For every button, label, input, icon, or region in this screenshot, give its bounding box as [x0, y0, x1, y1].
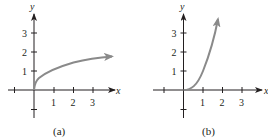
curve-square: [184, 19, 219, 90]
panel-b: y x 1 2 3 1 2 3 (b): [153, 1, 268, 138]
y-tick-label-2: 2: [22, 47, 27, 58]
x-tick-label-2: 2: [71, 97, 76, 108]
panel-label-a: (a): [53, 125, 66, 138]
y-tick-label-1: 1: [22, 66, 27, 77]
panel-label-b: (b): [202, 125, 215, 138]
panel-a: y x 1 2 3 1 2 3 (a): [8, 1, 121, 138]
y-axis-label: y: [29, 1, 35, 12]
x-tick-label-3: 3: [239, 97, 244, 108]
x-axis-label: x: [263, 85, 268, 96]
x-tick-label-2: 2: [220, 97, 225, 108]
y-tick-label-3: 3: [22, 28, 27, 39]
y-tick-label-3: 3: [172, 28, 177, 39]
y-tick-label-1: 1: [172, 66, 177, 77]
y-tick-label-2: 2: [172, 47, 177, 58]
x-tick-label-3: 3: [90, 97, 95, 108]
figure: y x 1 2 3 1 2 3 (a) y x 1: [0, 0, 268, 140]
curve-sqrt: [34, 57, 112, 91]
x-tick-label-1: 1: [200, 97, 205, 108]
y-axis-label: y: [179, 1, 185, 12]
x-tick-label-1: 1: [51, 97, 56, 108]
x-axis-label: x: [115, 85, 121, 96]
